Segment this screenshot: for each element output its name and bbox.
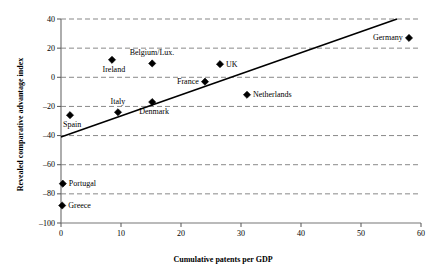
y-tick-label: –100 bbox=[15, 219, 55, 228]
y-tick-label: 40 bbox=[15, 15, 55, 24]
data-point-label: UK bbox=[226, 60, 238, 69]
data-marker bbox=[59, 180, 66, 187]
data-marker bbox=[405, 34, 412, 41]
x-tick-label: 10 bbox=[106, 229, 136, 238]
data-point-label: Ireland bbox=[103, 65, 126, 74]
gridlines bbox=[61, 19, 421, 194]
data-marker bbox=[243, 91, 250, 98]
data-point-label: Spain bbox=[63, 120, 81, 129]
data-marker bbox=[108, 56, 115, 63]
x-tick-label: 50 bbox=[346, 229, 376, 238]
data-point-label: France bbox=[177, 77, 199, 86]
data-marker bbox=[149, 60, 156, 67]
axis-lines bbox=[61, 19, 421, 223]
data-point-label: Greece bbox=[68, 201, 91, 210]
scatter-chart: 40200–20–40–60–80–100 0102030405060 Germ… bbox=[0, 0, 446, 277]
data-marker bbox=[201, 78, 208, 85]
trend-line bbox=[61, 19, 397, 137]
data-marker bbox=[114, 109, 121, 116]
data-point-label: Belgium/Lux. bbox=[130, 48, 175, 57]
data-point-label: Denmark bbox=[139, 107, 169, 116]
y-axis-title: Revealed comparative advantage index bbox=[16, 37, 25, 213]
tick-marks bbox=[57, 19, 421, 227]
trendline bbox=[61, 19, 397, 137]
x-tick-label: 30 bbox=[226, 229, 256, 238]
data-marker bbox=[66, 112, 73, 119]
x-tick-label: 20 bbox=[166, 229, 196, 238]
x-tick-label: 60 bbox=[406, 229, 436, 238]
data-point-label: Germany bbox=[373, 33, 403, 42]
data-marker bbox=[59, 202, 66, 209]
data-point-label: Portugal bbox=[69, 179, 96, 188]
data-marker bbox=[216, 61, 223, 68]
data-point-label: Netherlands bbox=[253, 90, 292, 99]
data-point-label: Italy bbox=[111, 97, 126, 106]
x-tick-label: 40 bbox=[286, 229, 316, 238]
x-tick-label: 0 bbox=[46, 229, 76, 238]
x-axis-title: Cumulative patents per GDP bbox=[0, 255, 446, 264]
